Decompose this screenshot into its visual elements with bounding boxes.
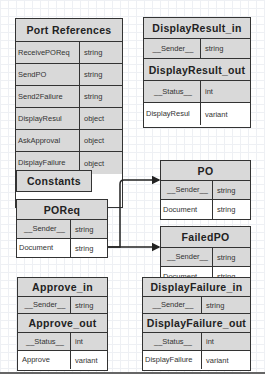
connection-links bbox=[0, 0, 265, 385]
bottom-divider bbox=[0, 372, 265, 385]
link-poreq-to-po[interactable] bbox=[108, 180, 159, 247]
